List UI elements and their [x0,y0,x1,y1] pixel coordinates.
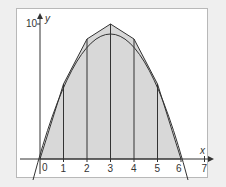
y-axis-label: y [44,13,51,24]
x-axis-arrow-icon [208,156,214,162]
trapezium-rule-diagram: 10 y x 0 1 2 3 4 5 6 7 [0,0,226,187]
x-tick-label-1: 1 [61,163,67,174]
y-tick-label-10: 10 [26,18,38,29]
x-tick-label-5: 5 [155,163,161,174]
y-axis-arrow-icon [37,13,43,19]
x-tick-label-2: 2 [84,163,90,174]
x-tick-label-3: 3 [108,163,114,174]
x-tick-label-4: 4 [131,163,137,174]
x-tick-label-7: 7 [202,163,208,174]
x-axis-label: x [199,145,206,156]
origin-label: 0 [42,162,48,173]
x-tick-label-6: 6 [176,163,182,174]
